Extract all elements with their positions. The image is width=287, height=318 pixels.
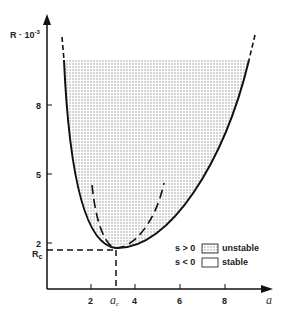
x-tick-8: 8	[222, 296, 227, 306]
y-tick-2: 2	[36, 239, 41, 249]
y-tick-8: 8	[36, 101, 41, 111]
stable-swatch	[202, 258, 218, 267]
x-axis-arrow-icon	[261, 285, 273, 293]
x-tick-4: 4	[132, 296, 137, 306]
x-tick-2: 2	[88, 296, 93, 306]
y-axis-arrow-icon	[43, 14, 51, 25]
y-tick-5: 5	[36, 170, 41, 180]
stability-diagram: 8 5 2 R · 10-3 Rc 2 4 6 8 ac a s > 0 uns…	[0, 0, 287, 318]
x-axis-label: a	[266, 293, 272, 307]
unstable-region	[64, 60, 249, 248]
x-tick-6: 6	[177, 296, 182, 306]
neutral-curve-left-extension	[62, 37, 64, 60]
legend: s > 0 unstable s < 0 stable	[175, 243, 259, 267]
critical-r-label: Rc	[32, 249, 43, 260]
legend-label-stable: stable	[222, 257, 248, 267]
legend-label-unstable: unstable	[222, 243, 259, 253]
neutral-curve-right-extension	[249, 35, 255, 60]
legend-condition-unstable: s > 0	[175, 243, 195, 253]
critical-a-label: ac	[110, 293, 120, 308]
legend-condition-stable: s < 0	[175, 257, 195, 267]
unstable-swatch	[202, 244, 218, 253]
y-axis-label: R · 10-3	[10, 29, 41, 40]
